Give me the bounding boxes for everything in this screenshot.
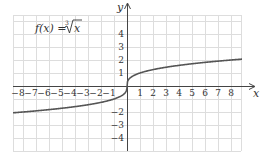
x-tick-label: 1 xyxy=(137,88,143,98)
y-axis-label: y xyxy=(116,1,124,14)
y-tick-label: 3 xyxy=(118,42,124,52)
function-title: f(x) = 3x xyxy=(34,19,82,35)
x-tick-label: −3 xyxy=(76,88,90,98)
radical-index: 3 xyxy=(65,19,69,26)
y-tick-label: −3 xyxy=(111,120,125,130)
x-tick-label: −8 xyxy=(11,88,25,98)
x-tick-label: 8 xyxy=(228,88,234,98)
x-tick-label: −6 xyxy=(37,88,51,98)
x-tick-label: 3 xyxy=(163,88,169,98)
y-tick-label: −4 xyxy=(111,133,125,143)
x-tick-label: 2 xyxy=(150,88,156,98)
y-tick-label: −2 xyxy=(111,107,124,117)
cube-root-chart: xy −8−7−6−5−4−3−2−1123456784321−2−3−4 f(… xyxy=(0,0,262,157)
x-tick-label: −7 xyxy=(24,88,38,98)
y-tick-label: 1 xyxy=(118,68,124,78)
x-tick-label: 7 xyxy=(215,88,221,98)
title-lhs: f(x) = xyxy=(34,22,67,35)
y-tick-label: 2 xyxy=(118,55,124,65)
x-axis-label: x xyxy=(253,87,260,100)
y-tick-label: 4 xyxy=(118,29,124,39)
radicand: x xyxy=(74,22,81,35)
x-tick-label: −1 xyxy=(102,88,115,98)
x-tick-label: 4 xyxy=(176,88,182,98)
x-tick-label: −4 xyxy=(63,88,77,98)
x-tick-label: 5 xyxy=(189,88,195,98)
x-tick-label: −5 xyxy=(50,88,64,98)
x-tick-label: 6 xyxy=(202,88,208,98)
x-tick-label: −2 xyxy=(89,88,102,98)
